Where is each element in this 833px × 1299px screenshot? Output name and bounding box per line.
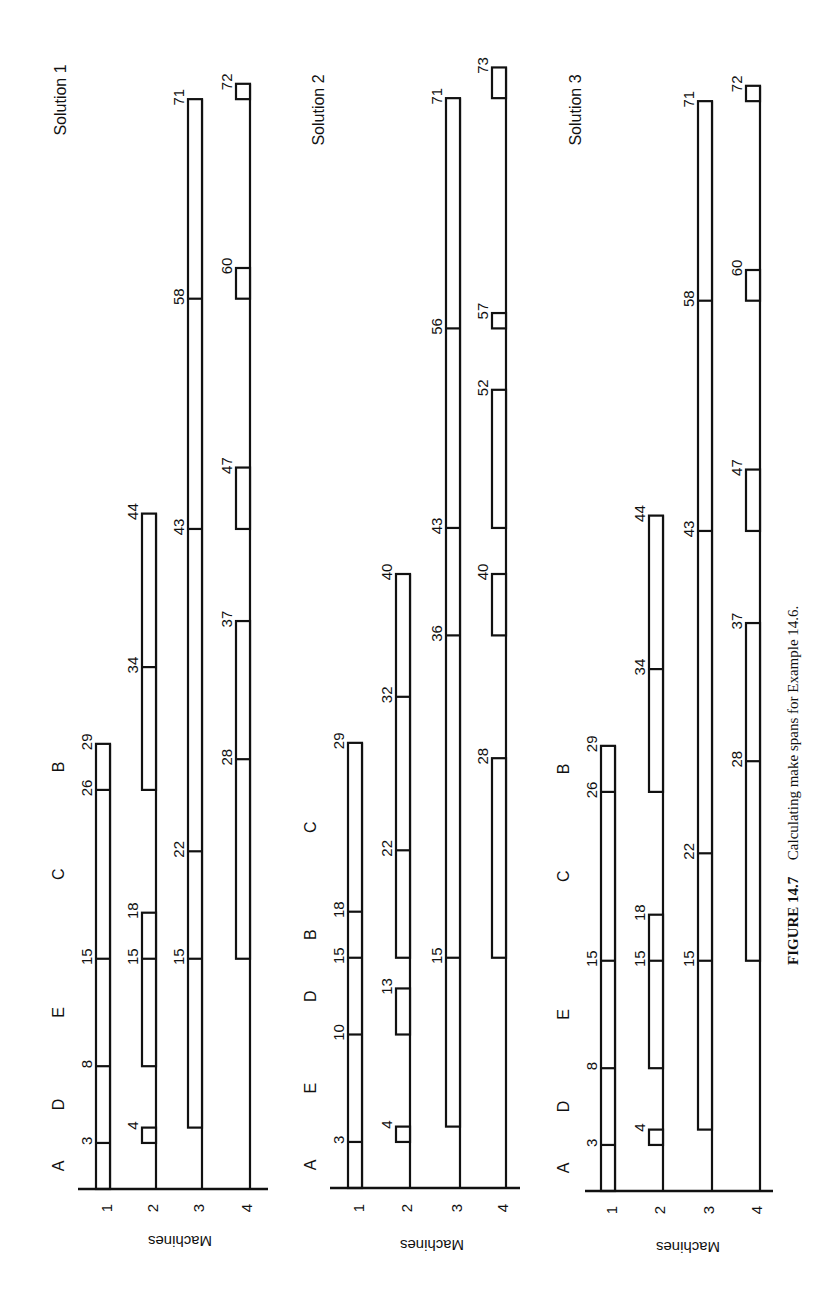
- gantt-figure: Solution 1381526294151834441522435871283…: [0, 0, 833, 1299]
- time-label: 28: [728, 751, 745, 768]
- time-label: 72: [728, 75, 745, 92]
- time-label: 34: [631, 659, 648, 676]
- time-label: 10: [330, 1024, 347, 1041]
- machines-axis-label: Machines: [148, 1233, 212, 1250]
- machine-row-4: 2837476072: [218, 73, 251, 1189]
- time-label: 15: [428, 947, 445, 964]
- time-label: 47: [218, 457, 235, 474]
- job-bar: [649, 915, 663, 1068]
- job-bar: [492, 313, 506, 328]
- time-label: 43: [428, 518, 445, 535]
- time-label: 15: [680, 950, 697, 967]
- machine-tick-4: 4: [494, 1204, 511, 1212]
- machine-row-1: 38152629: [78, 734, 111, 1189]
- job-bar: [236, 268, 250, 299]
- time-label: 44: [124, 503, 141, 520]
- time-label: 44: [631, 505, 648, 522]
- time-label: 40: [378, 564, 395, 581]
- job-label-C: C: [555, 871, 572, 883]
- time-label: 72: [218, 73, 235, 90]
- machine-row-4: 2840525773: [474, 57, 507, 1188]
- machine-row-2: 413223240: [378, 564, 411, 1188]
- job-bar: [236, 468, 250, 529]
- time-label: 18: [631, 904, 648, 921]
- job-bar: [396, 1127, 410, 1142]
- machine-row-2: 415183444: [631, 505, 664, 1191]
- job-label-D: D: [302, 990, 319, 1002]
- job-bar: [746, 270, 760, 301]
- job-label-C: C: [50, 869, 67, 881]
- job-bar: [649, 1130, 663, 1145]
- machine-tick-4: 4: [238, 1204, 255, 1212]
- time-label: 58: [170, 288, 187, 305]
- time-label: 26: [78, 780, 95, 797]
- time-label: 4: [378, 1120, 395, 1128]
- job-bar: [746, 470, 760, 531]
- machine-tick-2: 2: [398, 1204, 415, 1212]
- job-label-A: A: [302, 1159, 319, 1170]
- time-label: 29: [78, 734, 95, 751]
- time-label: 13: [378, 978, 395, 995]
- job-label-B: B: [555, 764, 572, 775]
- time-label: 37: [218, 611, 235, 628]
- job-bar: [396, 988, 410, 1034]
- time-label: 4: [124, 1121, 141, 1129]
- time-label: 26: [583, 782, 600, 799]
- machine-row-1: 310151829: [330, 733, 363, 1188]
- job-bar: [188, 99, 202, 1127]
- time-label: 37: [728, 613, 745, 630]
- job-bar: [492, 574, 506, 635]
- time-label: 15: [170, 948, 187, 965]
- gantt-panel-1: Solution 1381526294151834441522435871283…: [50, 64, 269, 1250]
- time-label: 73: [474, 57, 491, 74]
- machine-tick-1: 1: [603, 1206, 620, 1214]
- job-label-C: C: [302, 821, 319, 833]
- time-label: 3: [78, 1137, 95, 1145]
- time-label: 43: [680, 521, 697, 538]
- job-bar: [236, 621, 250, 959]
- job-label-A: A: [555, 1162, 572, 1173]
- machine-tick-2: 2: [144, 1204, 161, 1212]
- job-bar: [446, 98, 460, 1126]
- job-label-E: E: [302, 1083, 319, 1094]
- machine-tick-2: 2: [651, 1206, 668, 1214]
- job-bar: [492, 758, 506, 958]
- gantt-panel-2: Solution 2310151829413223240153643567128…: [302, 57, 521, 1254]
- time-label: 3: [330, 1136, 347, 1144]
- job-label-E: E: [50, 1007, 67, 1018]
- figure-number: FIGURE 14.7: [785, 876, 801, 965]
- time-label: 71: [170, 89, 187, 106]
- machine-tick-1: 1: [98, 1204, 115, 1212]
- time-label: 22: [680, 843, 697, 860]
- time-label: 29: [583, 736, 600, 753]
- job-bar: [396, 574, 410, 958]
- figure-caption: FIGURE 14.7 Calculating make spans for E…: [784, 606, 801, 965]
- machine-tick-4: 4: [748, 1206, 765, 1214]
- machine-row-3: 1522435871: [170, 89, 203, 1189]
- job-label-E: E: [555, 1009, 572, 1020]
- job-label-D: D: [50, 1099, 67, 1111]
- job-bar: [649, 516, 663, 792]
- time-label: 15: [124, 948, 141, 965]
- time-label: 71: [680, 91, 697, 108]
- job-bar: [236, 84, 250, 99]
- time-label: 15: [330, 947, 347, 964]
- job-label-B: B: [50, 762, 67, 773]
- job-bar: [348, 743, 362, 1188]
- time-label: 47: [728, 459, 745, 476]
- panel-title: Solution 1: [52, 64, 69, 135]
- time-label: 52: [474, 379, 491, 396]
- time-label: 22: [378, 840, 395, 857]
- job-bar: [142, 913, 156, 1066]
- time-label: 3: [583, 1139, 600, 1147]
- solution-panels: Solution 1381526294151834441522435871283…: [50, 57, 774, 1256]
- machine-row-4: 2837476072: [728, 75, 761, 1191]
- job-bar: [746, 623, 760, 961]
- machine-row-2: 415183444: [124, 503, 157, 1189]
- time-label: 43: [170, 519, 187, 536]
- job-bar: [601, 746, 615, 1191]
- job-bar: [492, 67, 506, 98]
- machine-row-3: 1536435671: [428, 88, 461, 1188]
- job-bar: [142, 1128, 156, 1143]
- panel-title: Solution 3: [567, 74, 584, 145]
